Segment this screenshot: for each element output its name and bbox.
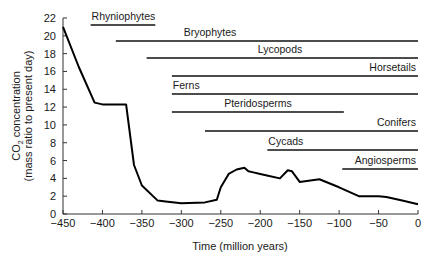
- co2-line: [63, 27, 418, 204]
- range-bar-conifers: Conifers: [205, 116, 418, 131]
- y-tick-label: 4: [50, 172, 56, 184]
- range-bar-cycads: Cycads: [267, 135, 418, 150]
- y-axis-label-units: (mass ratio to present day): [22, 51, 34, 182]
- range-label: Rhyniophytes: [92, 10, 156, 22]
- x-tick-label: −100: [327, 217, 352, 229]
- range-bar-angiosperms: Angiosperms: [342, 154, 418, 169]
- range-label: Lycopods: [258, 43, 303, 55]
- range-bar-pteridosperms: Pteridosperms: [172, 97, 344, 112]
- x-axis-label: Time (million years): [192, 240, 288, 252]
- y-tick-label: 18: [44, 48, 56, 60]
- plant-group-ranges: RhyniophytesBryophytesLycopodsHorsetails…: [91, 10, 418, 169]
- x-tick-label: −50: [369, 217, 388, 229]
- y-tick-label: 6: [50, 155, 56, 167]
- x-tick-label: −450: [51, 217, 76, 229]
- range-label: Ferns: [173, 79, 200, 91]
- x-tick-label: −400: [90, 217, 115, 229]
- range-label: Conifers: [377, 116, 416, 128]
- x-tick-label: −200: [248, 217, 273, 229]
- y-tick-label: 10: [44, 119, 56, 131]
- y-tick-label: 12: [44, 101, 56, 113]
- x-tick-label: 0: [415, 217, 421, 229]
- range-bar-rhyniophytes: Rhyniophytes: [91, 10, 156, 25]
- range-bar-horsetails: Horsetails: [172, 61, 418, 76]
- range-label: Angiosperms: [355, 154, 416, 166]
- y-tick-label: 22: [44, 12, 56, 24]
- y-tick-label: 14: [44, 83, 56, 95]
- co2-series: [63, 27, 418, 204]
- range-label: Pteridosperms: [224, 97, 292, 109]
- x-tick-label: −250: [208, 217, 233, 229]
- y-tick-label: 20: [44, 30, 56, 42]
- y-tick-label: 8: [50, 137, 56, 149]
- range-label: Horsetails: [369, 61, 416, 73]
- co2-plant-evolution-chart: 0246810121416182022−450−400−350−300−250−…: [0, 0, 430, 260]
- y-tick-label: 2: [50, 190, 56, 202]
- range-bar-lycopods: Lycopods: [147, 43, 418, 58]
- range-label: Bryophytes: [184, 26, 237, 38]
- x-tick-label: −300: [169, 217, 194, 229]
- range-bar-ferns: Ferns: [172, 79, 418, 94]
- range-label: Cycads: [268, 135, 303, 147]
- x-tick-label: −350: [129, 217, 154, 229]
- y-tick-label: 16: [44, 65, 56, 77]
- x-tick-label: −150: [287, 217, 312, 229]
- range-bar-bryophytes: Bryophytes: [116, 26, 418, 41]
